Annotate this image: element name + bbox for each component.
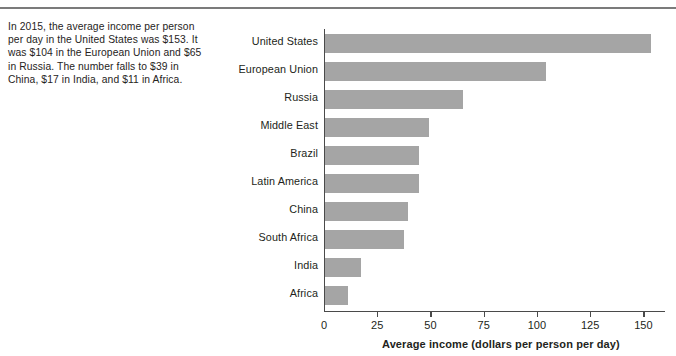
bar-category-label: United States bbox=[168, 35, 318, 47]
bar-row: India bbox=[232, 254, 672, 282]
x-axis-tick-label: 25 bbox=[371, 319, 383, 331]
bar-chart: United StatesEuropean UnionRussiaMiddle … bbox=[232, 20, 672, 350]
bar-row: Russia bbox=[232, 86, 672, 114]
bar-category-label: European Union bbox=[168, 63, 318, 75]
bar-category-label: Middle East bbox=[168, 119, 318, 131]
bar-category-label: Latin America bbox=[168, 175, 318, 187]
bar-row: United States bbox=[232, 30, 672, 58]
x-axis-tick bbox=[537, 311, 538, 317]
x-axis-title: Average income (dollars per person per d… bbox=[382, 338, 620, 350]
top-divider-rule bbox=[0, 7, 676, 9]
bar-category-label: China bbox=[168, 203, 318, 215]
bar-category-label: India bbox=[168, 259, 318, 271]
x-axis-line bbox=[324, 311, 665, 312]
bar-row: Brazil bbox=[232, 142, 672, 170]
bar-row: South Africa bbox=[232, 226, 672, 254]
bar-rect bbox=[325, 34, 651, 53]
x-axis-tick-label: 0 bbox=[321, 319, 327, 331]
bar-category-label: Africa bbox=[168, 287, 318, 299]
bar-rect bbox=[325, 146, 419, 165]
bar-row: Africa bbox=[232, 282, 672, 310]
x-axis-tick bbox=[377, 311, 378, 317]
x-axis-tick bbox=[643, 311, 644, 317]
bar-category-label: Brazil bbox=[168, 147, 318, 159]
caption-paragraph: In 2015, the average income per person p… bbox=[8, 20, 208, 86]
bar-rect bbox=[325, 62, 546, 81]
bar-row: European Union bbox=[232, 58, 672, 86]
x-axis-tick-label: 50 bbox=[424, 319, 436, 331]
bar-category-label: South Africa bbox=[168, 231, 318, 243]
bar-row: China bbox=[232, 198, 672, 226]
x-axis-tick-label: 125 bbox=[581, 319, 599, 331]
bar-rect bbox=[325, 258, 361, 277]
bar-row: Latin America bbox=[232, 170, 672, 198]
bar-rect bbox=[325, 286, 348, 305]
x-axis-tick-label: 75 bbox=[478, 319, 490, 331]
x-axis-tick bbox=[590, 311, 591, 317]
bar-category-label: Russia bbox=[168, 91, 318, 103]
bar-rect bbox=[325, 230, 404, 249]
x-axis-tick bbox=[430, 311, 431, 317]
bar-rect bbox=[325, 90, 463, 109]
bar-rect bbox=[325, 174, 419, 193]
x-axis-tick-label: 150 bbox=[634, 319, 652, 331]
x-axis-tick bbox=[484, 311, 485, 317]
x-axis-tick-label: 100 bbox=[528, 319, 546, 331]
bar-row: Middle East bbox=[232, 114, 672, 142]
bar-rect bbox=[325, 202, 408, 221]
bar-rect bbox=[325, 118, 429, 137]
